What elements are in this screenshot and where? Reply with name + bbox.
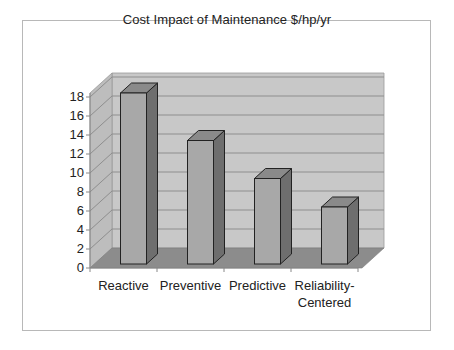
bar-side: [281, 169, 292, 265]
y-tick-label: 12: [54, 147, 84, 161]
bar-side: [348, 197, 359, 264]
y-tick-label: 8: [54, 185, 84, 199]
y-tick-label: 4: [54, 223, 84, 237]
bar-reliability-centered: [322, 207, 348, 264]
y-tick-label: 14: [54, 128, 84, 142]
y-tick-label: 10: [54, 166, 84, 180]
y-tick-label: 16: [54, 109, 84, 123]
y-tick-label: 2: [54, 242, 84, 256]
bar-predictive: [255, 179, 281, 265]
y-tick-label: 0: [54, 261, 84, 275]
x-tick-label: Reliability-Centered: [285, 277, 365, 311]
bar-reactive: [121, 93, 147, 264]
bar-side: [147, 83, 158, 264]
y-tick-label: 18: [54, 90, 84, 104]
y-tick-label: 6: [54, 204, 84, 218]
bar-side: [214, 131, 225, 265]
bar-preventive: [188, 141, 214, 265]
